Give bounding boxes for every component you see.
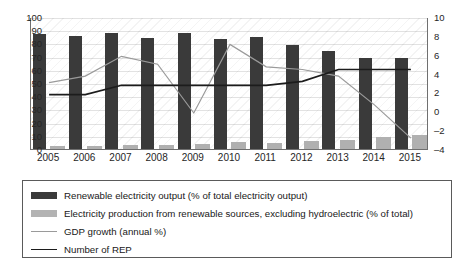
legend-item[interactable]: Number of REP: [31, 241, 443, 258]
y-axis-right-tick: 0: [434, 107, 460, 117]
y-axis-left-tick: 100: [18, 13, 42, 23]
x-axis-tick-2007: 2007: [102, 152, 138, 163]
legend-item[interactable]: GDP growth (annual %): [31, 223, 443, 240]
y-axis-right-tick: 6: [434, 51, 460, 61]
legend-label: GDP growth (annual %): [64, 227, 166, 237]
line-gdp-growth: [49, 44, 411, 138]
legend-label: Renewable electricity output (% of total…: [64, 191, 307, 201]
x-axis-tick-2009: 2009: [175, 152, 211, 163]
chart-container: 1009080706050403020100 1086420–2–4 20052…: [0, 0, 474, 270]
y-axis-left-tick: 70: [18, 53, 42, 63]
legend-label: Electricity production from renewable so…: [64, 209, 413, 219]
x-axis-tick-2011: 2011: [247, 152, 283, 163]
y-axis-left-tick: 10: [18, 132, 42, 142]
legend-label: Number of REP: [64, 245, 132, 255]
plot-inner: [31, 18, 428, 149]
x-axis-tick-2013: 2013: [320, 152, 356, 163]
y-axis-left-tick: 20: [18, 119, 42, 129]
y-axis-left-tick: 60: [18, 66, 42, 76]
chart-legend: Renewable electricity output (% of total…: [22, 180, 452, 258]
y-axis-left-tick: 90: [18, 26, 42, 36]
legend-swatch-line-dark-icon: [31, 249, 57, 250]
y-axis-right-tick: 2: [434, 88, 460, 98]
y-axis-right-tick: 4: [434, 70, 460, 80]
y-axis-left-tick: 30: [18, 105, 42, 115]
y-axis-left-tick: 80: [18, 39, 42, 49]
legend-swatch-line-grey-icon: [31, 231, 57, 232]
legend-item[interactable]: Renewable electricity output (% of total…: [31, 187, 443, 204]
x-axis-tick-2014: 2014: [356, 152, 392, 163]
y-axis-left-tick: 40: [18, 92, 42, 102]
y-axis-right-tick: 8: [434, 32, 460, 42]
plot-area: [30, 18, 428, 150]
legend-swatch-bar-dark-icon: [31, 192, 57, 199]
x-axis-tick-2005: 2005: [30, 152, 66, 163]
line-series-layer: [31, 18, 428, 149]
x-axis-tick-2006: 2006: [66, 152, 102, 163]
y-axis-right-tick: –2: [434, 126, 460, 136]
y-axis-right-tick: 10: [434, 13, 460, 23]
y-axis-right-line: [427, 18, 428, 150]
y-axis-left-tick: 50: [18, 79, 42, 89]
y-axis-right-tick: –4: [434, 145, 460, 155]
x-axis-tick-2012: 2012: [283, 152, 319, 163]
x-axis-tick-2015: 2015: [392, 152, 428, 163]
legend-swatch-bar-light-icon: [31, 210, 57, 217]
legend-item[interactable]: Electricity production from renewable so…: [31, 205, 443, 222]
x-axis-tick-2010: 2010: [211, 152, 247, 163]
x-axis-tick-2008: 2008: [139, 152, 175, 163]
legend-rows: Renewable electricity output (% of total…: [31, 187, 443, 258]
